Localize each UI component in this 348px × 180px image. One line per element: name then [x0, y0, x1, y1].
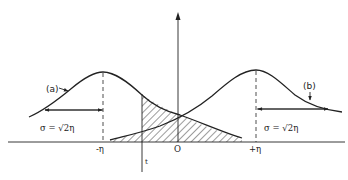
threshold-label: t: [145, 158, 148, 166]
curve-b-label: (b): [303, 81, 316, 91]
mean-label-a: -η: [96, 144, 104, 154]
label-a-pointer: [59, 88, 68, 91]
gaussian-overlap-diagram: (a) (b) σ = √2η σ = √2η -η O +η t: [0, 0, 348, 180]
shaded-region-a-tail: [142, 95, 242, 142]
y-axis-arrow-icon: [176, 12, 181, 20]
mean-label-b: +η: [249, 144, 261, 154]
origin-label: O: [174, 144, 181, 154]
sigma-label-a: σ = √2η: [40, 123, 74, 133]
sigma-label-b: σ = √2η: [264, 123, 298, 133]
curve-a-label: (a): [46, 84, 59, 94]
